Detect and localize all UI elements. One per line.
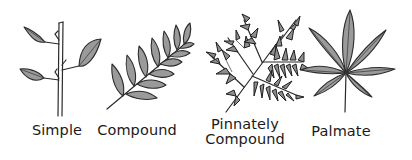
pinnately-compound-leaf-icon xyxy=(206,14,308,112)
leaf-types-diagram: Simple Compound Pinnately Compound Palma… xyxy=(0,0,412,160)
compound-label: Compound xyxy=(92,123,182,138)
palmate-leaf-icon xyxy=(301,10,395,112)
simple-leaf-icon xyxy=(20,22,101,116)
compound-leaf-icon xyxy=(107,23,194,109)
palmate-label: Palmate xyxy=(306,124,376,139)
simple-label: Simple xyxy=(26,123,88,138)
pinnately-compound-label: Compound xyxy=(200,132,290,147)
pinnately-label: Pinnately xyxy=(200,117,290,132)
